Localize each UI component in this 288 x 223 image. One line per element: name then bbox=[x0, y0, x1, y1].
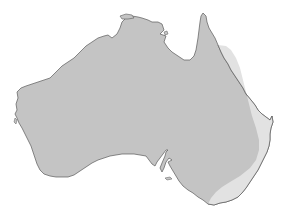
australia-map bbox=[0, 0, 288, 223]
shark-bay-island bbox=[14, 118, 17, 124]
tiwi-islands bbox=[120, 14, 134, 19]
groote-island bbox=[164, 31, 168, 35]
kangaroo-island bbox=[165, 177, 172, 180]
mainland-region bbox=[15, 13, 273, 205]
